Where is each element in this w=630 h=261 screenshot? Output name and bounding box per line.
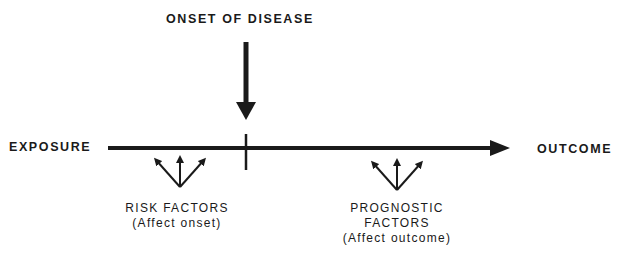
risk-factors-arrows-icon	[156, 158, 204, 187]
risk-factors-title: RISK FACTORS	[112, 201, 242, 216]
exposure-label: EXPOSURE	[9, 140, 91, 154]
outcome-label: OUTCOME	[537, 142, 612, 156]
prognostic-factors-subtitle: (Affect outcome)	[337, 231, 457, 246]
onset-of-disease-label: ONSET OF DISEASE	[166, 12, 314, 26]
risk-factors-subtitle: (Affect onset)	[112, 216, 242, 231]
timeline-arrow	[108, 140, 510, 156]
onset-down-arrow	[236, 42, 256, 120]
risk-factors-label: RISK FACTORS (Affect onset)	[112, 201, 242, 231]
prognostic-factors-title-1: PROGNOSTIC	[337, 201, 457, 216]
prognostic-factors-label: PROGNOSTIC FACTORS (Affect outcome)	[337, 201, 457, 246]
prognostic-factors-arrows-icon	[373, 161, 421, 190]
diagram-canvas	[0, 0, 630, 261]
prognostic-factors-title-2: FACTORS	[337, 216, 457, 231]
